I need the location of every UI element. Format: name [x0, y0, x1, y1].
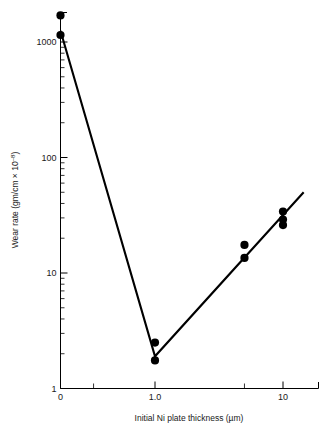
y-tick-label: 100 [41, 153, 56, 163]
x-tick-label: 1.0 [149, 392, 162, 402]
data-point [151, 356, 159, 364]
plot-background [0, 0, 329, 432]
y-axis-title-suffix: ) [10, 151, 20, 154]
data-point [240, 241, 248, 249]
y-axis-title: Wear rate (gm/cm × 10–8) [9, 151, 20, 248]
data-point [151, 338, 159, 346]
data-point [56, 31, 64, 39]
x-axis-title: Initial Ni plate thickness (µm) [135, 413, 244, 423]
chart-figure: 1101001000 01.010 Initial Ni plate thick… [0, 0, 329, 432]
data-point [279, 221, 287, 229]
wear-rate-scatter-chart: 1101001000 01.010 Initial Ni plate thick… [0, 0, 329, 432]
data-point [56, 11, 64, 19]
y-tick-label: 1 [51, 384, 56, 394]
x-tick-label: 10 [278, 392, 288, 402]
x-tick-label: 0 [58, 392, 63, 402]
data-point [279, 208, 287, 216]
y-axis-title-main: Wear rate (gm/cm × 10 [10, 161, 20, 248]
y-tick-label: 1000 [36, 37, 56, 47]
y-tick-label: 10 [46, 268, 56, 278]
data-point [240, 254, 248, 262]
